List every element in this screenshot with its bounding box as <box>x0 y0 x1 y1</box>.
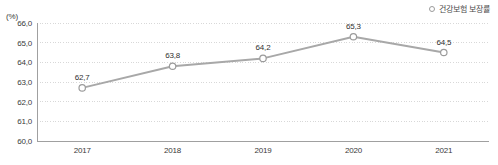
data-point-value-label: 65,3 <box>346 22 361 31</box>
data-point-value-label: 64,2 <box>256 43 271 52</box>
health-insurance-coverage-line-chart: (%) 건강보험 보장률 66,065,064,063,062,061,060,… <box>0 0 498 165</box>
plot-area: 66,065,064,063,062,061,060,0 20172018201… <box>0 0 498 165</box>
data-point-labels: 62,763,864,265,364,5 <box>0 0 498 165</box>
data-point-value-label: 63,8 <box>165 51 180 60</box>
data-point-value-label: 64,5 <box>436 38 451 47</box>
data-point-value-label: 62,7 <box>75 73 90 82</box>
